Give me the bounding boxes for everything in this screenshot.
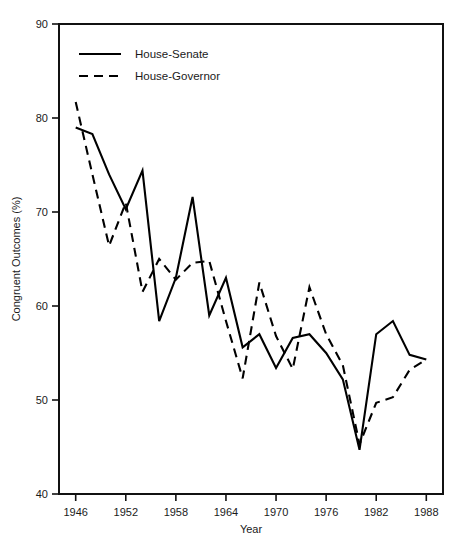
chart-figure: 405060708090 194619521958196419701976198…: [0, 0, 460, 552]
x-tick-label: 1988: [414, 506, 438, 518]
series-line-house-governor: [76, 102, 427, 444]
x-tick-label: 1976: [314, 506, 338, 518]
x-tick-label: 1946: [63, 506, 87, 518]
x-axis-tick-labels: 19461952195819641970197619821988: [63, 506, 438, 518]
x-axis-ticks: [76, 494, 427, 501]
y-axis-ticks: [52, 24, 59, 494]
x-tick-label: 1964: [214, 506, 238, 518]
x-tick-label: 1952: [114, 506, 138, 518]
y-tick-label: 60: [36, 300, 48, 312]
x-tick-label: 1970: [264, 506, 288, 518]
x-tick-label: 1982: [364, 506, 388, 518]
data-series-group: [76, 102, 427, 450]
x-axis-title: Year: [240, 523, 263, 535]
y-tick-label: 80: [36, 112, 48, 124]
y-tick-label: 70: [36, 206, 48, 218]
y-axis-title: Congruent Outcomes (%): [10, 197, 22, 322]
x-tick-label: 1958: [164, 506, 188, 518]
y-tick-label: 50: [36, 394, 48, 406]
line-chart: 405060708090 194619521958196419701976198…: [0, 0, 460, 552]
series-line-house-senate: [76, 127, 427, 449]
y-axis-tick-labels: 405060708090: [36, 18, 48, 500]
y-tick-label: 40: [36, 488, 48, 500]
legend-label-house-governor: House-Governor: [135, 70, 220, 82]
legend-label-house-senate: House-Senate: [135, 48, 209, 60]
plot-frame: [59, 24, 443, 494]
chart-legend: House-SenateHouse-Governor: [79, 48, 220, 82]
y-tick-label: 90: [36, 18, 48, 30]
